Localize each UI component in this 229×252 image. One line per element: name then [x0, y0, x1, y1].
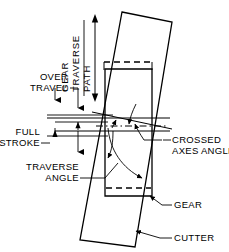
- label-gear: GEAR: [174, 199, 202, 210]
- gear-traverse-path-line3: PATH: [81, 65, 92, 92]
- label-cutter: CUTTER: [174, 232, 214, 243]
- gear-traverse-path-arrow: [92, 14, 98, 102]
- over-travel-dimension: [47, 88, 113, 130]
- gear-outline: [105, 69, 152, 196]
- technical-diagram: GEAR TRAVERSE PATH OVER TRAVEL FULL STRO…: [0, 0, 229, 252]
- crossed-axes-angle-line2: AXES ANGLE: [172, 145, 229, 156]
- gear-traverse-path-line2: TRAVERSE: [70, 35, 81, 92]
- gear-label: GEAR: [174, 199, 202, 210]
- full-stroke-line2: STROKE: [0, 137, 40, 148]
- diagram-canvas: GEAR TRAVERSE PATH OVER TRAVEL FULL STRO…: [0, 0, 229, 252]
- over-travel-line2: TRAVEL: [30, 82, 68, 93]
- label-crossed-axes-angle: CROSSED AXES ANGLE: [172, 134, 229, 156]
- gear-leader: [150, 196, 172, 205]
- cutter-label: CUTTER: [174, 232, 214, 243]
- cutter-outline: [80, 12, 172, 247]
- label-traverse-angle: TRAVERSE ANGLE: [26, 161, 79, 183]
- full-stroke-line1: FULL: [16, 126, 40, 137]
- traverse-angle-line1: TRAVERSE: [26, 161, 79, 172]
- traverse-angle-leader: [80, 163, 118, 178]
- label-full-stroke: FULL STROKE: [0, 126, 40, 148]
- crossed-axes-angle-line1: CROSSED: [172, 134, 221, 145]
- cutter-leader: [136, 231, 172, 238]
- traverse-angle-line2: ANGLE: [45, 172, 79, 183]
- over-travel-line1: OVER: [40, 71, 68, 82]
- label-over-travel: OVER TRAVEL: [30, 71, 68, 93]
